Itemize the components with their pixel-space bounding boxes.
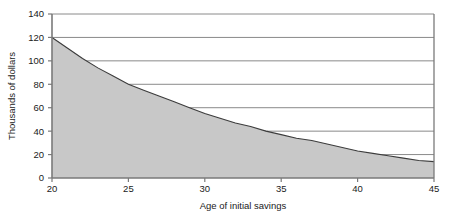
y-axis-tick-labels: 020406080100120140 <box>28 8 44 183</box>
y-tick-label-140: 140 <box>28 8 44 19</box>
chart-figure: 020406080100120140 202530354045 Thousand… <box>0 0 451 224</box>
x-tick-label-30: 30 <box>200 183 211 194</box>
y-tick-label-100: 100 <box>28 55 44 66</box>
x-tick-label-20: 20 <box>47 183 58 194</box>
y-tick-label-60: 60 <box>33 102 44 113</box>
x-tick-label-35: 35 <box>276 183 287 194</box>
x-tick-label-45: 45 <box>429 183 440 194</box>
x-tick-label-25: 25 <box>123 183 134 194</box>
y-tick-label-0: 0 <box>39 172 44 183</box>
savings-area-chart: 020406080100120140 202530354045 Thousand… <box>0 0 451 224</box>
x-axis-tick-labels: 202530354045 <box>47 183 440 194</box>
x-tick-label-40: 40 <box>352 183 363 194</box>
y-tick-label-80: 80 <box>33 79 44 90</box>
y-tick-label-40: 40 <box>33 126 44 137</box>
y-tick-label-120: 120 <box>28 32 44 43</box>
x-axis-title: Age of initial savings <box>200 200 287 211</box>
y-axis-title: Thousands of dollars <box>6 52 17 140</box>
y-tick-label-20: 20 <box>33 149 44 160</box>
